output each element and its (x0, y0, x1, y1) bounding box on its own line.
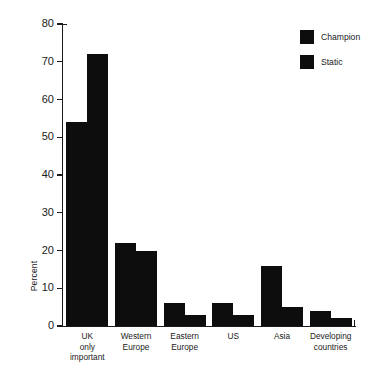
y-tick-label: 70 (26, 56, 54, 67)
y-tick (57, 137, 63, 138)
y-tick-label: 10 (26, 282, 54, 293)
y-tick-label: 60 (26, 94, 54, 105)
y-tick (57, 99, 63, 100)
bar (282, 307, 303, 326)
y-tick (57, 325, 63, 326)
y-tick-label: 30 (26, 207, 54, 218)
bar (136, 251, 157, 327)
bar (310, 311, 331, 326)
y-tick (57, 250, 63, 251)
x-axis-line (62, 326, 356, 327)
bar (87, 54, 108, 326)
bar (331, 318, 352, 326)
y-tick (57, 61, 63, 62)
y-tick (57, 174, 63, 175)
y-tick (57, 23, 63, 24)
legend-swatch-icon (300, 55, 314, 69)
legend-swatch-icon (300, 30, 314, 44)
y-tick-label: 50 (26, 131, 54, 142)
bar (261, 266, 282, 326)
bar (115, 243, 136, 326)
y-tick (57, 212, 63, 213)
bar (185, 315, 206, 326)
bar-chart: Percent 80706050403020100 UK only import… (0, 0, 382, 381)
legend-label: Static (321, 57, 343, 67)
bar (164, 303, 185, 326)
legend-item: Static (300, 55, 360, 69)
chart-legend: ChampionStatic (300, 30, 360, 80)
y-tick (57, 288, 63, 289)
legend-item: Champion (300, 30, 360, 44)
y-tick-label: 80 (26, 18, 54, 29)
legend-label: Champion (321, 32, 360, 42)
bar (233, 315, 254, 326)
y-tick-label: 40 (26, 169, 54, 180)
y-tick-label: 20 (26, 245, 54, 256)
bar (66, 122, 87, 326)
x-category-label: Developing countries (295, 331, 367, 352)
y-tick-label: 0 (26, 320, 54, 331)
bar (212, 303, 233, 326)
